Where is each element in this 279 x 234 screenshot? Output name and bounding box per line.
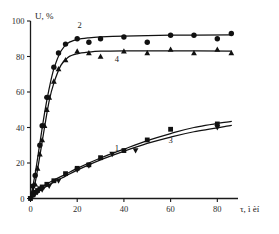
marker-square-1 bbox=[122, 148, 127, 153]
curve-label-2: 2 bbox=[77, 20, 81, 30]
y-axis-tick-label: 100 bbox=[12, 16, 25, 26]
marker-square-1 bbox=[168, 127, 173, 132]
marker-square-1 bbox=[63, 171, 68, 176]
curve-label-1: 1 bbox=[115, 143, 119, 153]
x-axis: 020406080 bbox=[28, 199, 238, 214]
curve-line-3 bbox=[31, 125, 232, 198]
marker-square-1 bbox=[145, 138, 150, 143]
x-axis-tick-label: 80 bbox=[213, 204, 222, 214]
chart-figure: 020406080100 020406080 1324 U, % τ, ì èí bbox=[0, 0, 279, 234]
y-axis-tick-label: 60 bbox=[16, 87, 25, 97]
marker-triangle-down-3 bbox=[133, 148, 139, 153]
marker-circle-2 bbox=[145, 40, 150, 45]
curve-labels: 1324 bbox=[77, 20, 172, 152]
marker-circle-2 bbox=[51, 64, 56, 69]
marker-circle-2 bbox=[121, 34, 126, 39]
x-axis-tick-label: 40 bbox=[120, 204, 129, 214]
marker-square-1 bbox=[98, 155, 103, 160]
curve-line-1 bbox=[31, 121, 232, 198]
marker-circle-2 bbox=[32, 173, 37, 178]
y-axis-tick-label: 40 bbox=[16, 123, 25, 133]
y-axis-tick-label: 20 bbox=[16, 158, 25, 168]
data-curves bbox=[31, 35, 232, 199]
x-axis-tick-label: 0 bbox=[28, 204, 32, 214]
marker-circle-2 bbox=[56, 50, 61, 55]
chart-canvas: 020406080100 020406080 1324 U, % τ, ì èí bbox=[0, 0, 279, 234]
marker-circle-2 bbox=[37, 143, 42, 148]
marker-circle-2 bbox=[229, 31, 234, 36]
curve-line-2 bbox=[31, 35, 232, 199]
marker-circle-2 bbox=[98, 36, 103, 41]
marker-circle-2 bbox=[168, 33, 173, 38]
marker-triangle-up-4 bbox=[168, 46, 174, 51]
marker-triangle-up-4 bbox=[214, 46, 220, 51]
marker-triangle-up-4 bbox=[74, 48, 80, 53]
marker-square-1 bbox=[51, 178, 56, 183]
y-axis: 020406080100 bbox=[12, 16, 31, 204]
marker-circle-2 bbox=[75, 36, 80, 41]
x-axis-tick-label: 20 bbox=[73, 204, 82, 214]
marker-circle-2 bbox=[63, 41, 68, 46]
curve-label-3: 3 bbox=[168, 135, 172, 145]
marker-circle-2 bbox=[86, 40, 91, 45]
curve-label-4: 4 bbox=[115, 54, 120, 64]
marker-circle-2 bbox=[191, 33, 196, 38]
x-axis-tick-label: 60 bbox=[166, 204, 175, 214]
y-axis-tick-label: 80 bbox=[16, 52, 25, 62]
x-axis-title: τ, ì èí bbox=[240, 204, 260, 214]
y-axis-title: U, % bbox=[35, 11, 54, 21]
y-axis-tick-label: 0 bbox=[20, 194, 24, 204]
marker-circle-2 bbox=[215, 36, 220, 41]
marker-triangle-up-4 bbox=[98, 54, 104, 59]
